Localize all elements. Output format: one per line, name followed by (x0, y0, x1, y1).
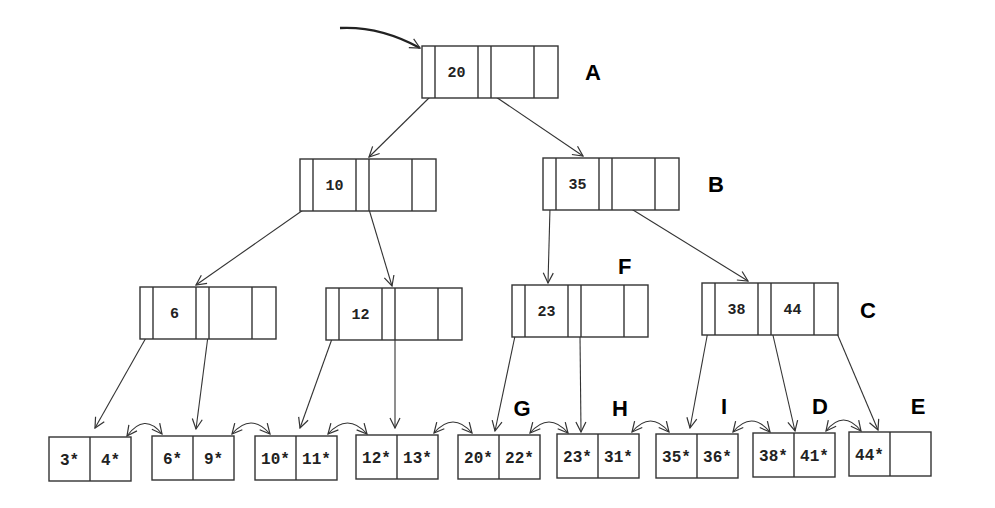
node-label: C (860, 298, 876, 323)
inner-node-n12: 12 (326, 288, 462, 340)
inner-node-box (422, 46, 558, 98)
node-key: 44 (783, 302, 801, 319)
tree-edge-arrow (580, 336, 581, 432)
node-key: 38 (727, 302, 745, 319)
leaf-entry: 23* (563, 449, 592, 467)
tree-edge-arrow (772, 331, 795, 431)
leaf-node-L1: 3*4* (49, 437, 131, 481)
leaf-node-E: 44*E (849, 394, 931, 476)
edges-layer (95, 95, 878, 432)
tree-edge-arrow (690, 331, 708, 428)
tree-edge-arrow (369, 95, 432, 157)
leaf-node-L4: 12*13* (356, 435, 438, 479)
sibling-link-arrow (530, 422, 568, 433)
inner-nodes-layer: 20A1035B61223F3844C (140, 46, 876, 340)
node-key: 23 (537, 304, 555, 321)
node-label: I (721, 394, 727, 419)
tree-edge-arrow (548, 208, 550, 283)
tree-edge-arrow (836, 331, 878, 430)
node-label: A (585, 60, 601, 85)
inner-node-box (300, 159, 436, 211)
root-pointer (340, 28, 420, 48)
leaf-entry: 36* (703, 449, 732, 467)
inner-node-C: 3844C (702, 283, 876, 335)
leaf-node-H: 23*31*H (557, 396, 639, 478)
leaf-entry: 38* (759, 448, 788, 466)
tree-edge-arrow (95, 336, 147, 428)
sibling-link-arrow (232, 423, 270, 434)
tree-edge-arrow (196, 208, 306, 285)
root-pointer-arrow (340, 28, 420, 48)
node-label: G (513, 396, 530, 421)
inner-node-box (702, 283, 838, 335)
inner-node-box (326, 288, 462, 340)
node-label: D (812, 394, 828, 419)
inner-node-box (543, 158, 679, 210)
node-key: 6 (170, 306, 179, 323)
leaf-entry: 12* (362, 450, 391, 468)
tree-edge-arrow (300, 336, 333, 428)
leaf-entry: 22* (505, 450, 534, 468)
inner-node-n10: 10 (300, 159, 436, 211)
leaf-node-L3: 10*11* (255, 436, 337, 480)
inner-node-F: 23F (512, 254, 648, 337)
node-key: 10 (325, 178, 343, 195)
tree-edge-arrow (196, 336, 208, 429)
sibling-link-arrow (733, 421, 770, 432)
leaf-entry: 11* (302, 451, 331, 469)
node-label: F (618, 254, 631, 279)
bplus-tree-diagram: 20A1035B61223F3844C 3*4*6*9*10*11*12*13*… (0, 0, 995, 508)
leaf-node-L2: 6*9* (152, 436, 234, 480)
leaf-node-D: 38*41*D (753, 394, 835, 477)
tree-edge-arrow (493, 95, 583, 156)
node-key: 12 (351, 307, 369, 324)
sibling-link-arrow (328, 423, 367, 434)
leaf-entry: 44* (855, 447, 884, 465)
leaf-entry: 13* (403, 450, 432, 468)
leaf-entry: 3* (60, 452, 79, 470)
node-key: 35 (568, 177, 586, 194)
leaf-entry: 4* (101, 452, 120, 470)
leaf-entry: 10* (261, 451, 290, 469)
leaf-entry: 31* (604, 449, 633, 467)
leaf-node-G: 20*22*G (458, 396, 540, 479)
leaf-entry: 20* (464, 450, 493, 468)
leaf-entry: 6* (163, 451, 182, 469)
sibling-link-arrow (632, 421, 669, 432)
inner-node-box (140, 287, 276, 339)
leaf-nodes-layer: 3*4*6*9*10*11*12*13*20*22*G23*31*H35*36*… (49, 394, 931, 481)
sibling-link-arrow (434, 422, 472, 433)
leaf-entry: 35* (662, 449, 691, 467)
node-key: 20 (447, 65, 465, 82)
leaf-node-I: 35*36*I (656, 394, 738, 478)
leaf-entry: 41* (800, 448, 829, 466)
tree-edge-arrow (368, 206, 392, 286)
inner-node-n6: 6 (140, 287, 276, 339)
sibling-links-layer (127, 420, 861, 436)
node-label: E (911, 394, 926, 419)
inner-node-B: 35B (543, 158, 724, 210)
inner-node-A: 20A (422, 46, 601, 98)
node-label: B (708, 172, 724, 197)
sibling-link-arrow (127, 423, 162, 436)
inner-node-box (512, 285, 648, 337)
leaf-entry: 9* (204, 451, 223, 469)
node-label: H (612, 396, 628, 421)
sibling-link-arrow (826, 420, 861, 431)
tree-edge-arrow (495, 336, 515, 431)
